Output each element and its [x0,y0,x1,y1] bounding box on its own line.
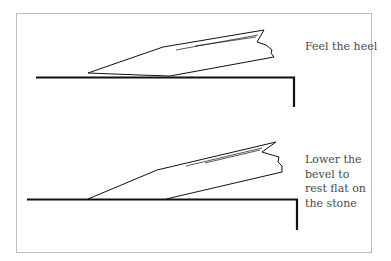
caption-lower-the-bevel: Lower the bevel to rest flat on the ston… [305,153,371,211]
bottom-chisel-blade [88,142,282,199]
bottom-stone [27,200,297,231]
top-panel-drawing [36,30,294,107]
bottom-panel-drawing [27,142,297,230]
caption-feel-the-heel: Feel the heel [305,40,377,55]
top-stone [36,78,294,108]
